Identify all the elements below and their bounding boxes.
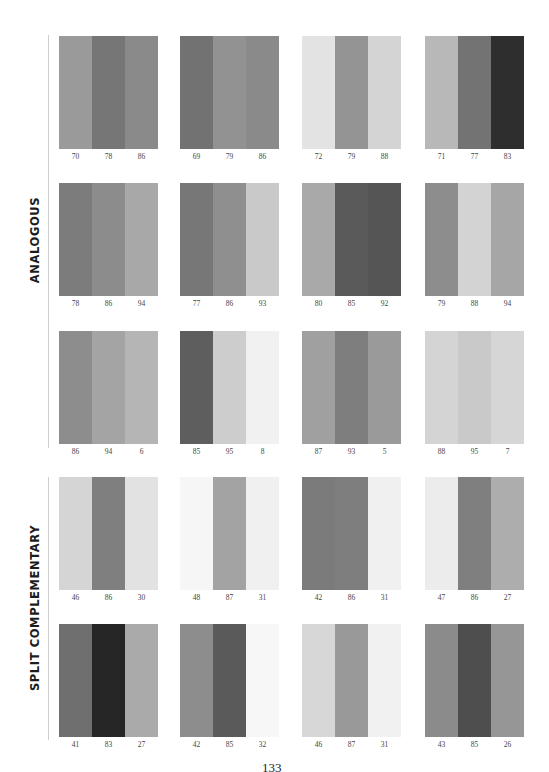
color-swatch: 468731	[302, 624, 401, 737]
swatch-value: 83	[92, 740, 125, 749]
swatch-value-labels: 88957	[425, 447, 524, 456]
swatch-value: 95	[213, 447, 246, 456]
section-label: SPLIT COMPLEMENTARY	[28, 525, 42, 691]
swatch-value: 85	[458, 740, 491, 749]
color-stripe	[213, 331, 246, 444]
color-swatch: 87935	[302, 331, 401, 444]
swatch-value: 31	[368, 593, 401, 602]
color-stripe	[59, 477, 92, 590]
swatch-value: 86	[335, 593, 368, 602]
swatch-value: 46	[59, 593, 92, 602]
color-stripe	[59, 624, 92, 737]
swatch-value: 42	[302, 593, 335, 602]
color-stripe	[59, 36, 92, 149]
color-swatch: 468630	[59, 477, 158, 590]
swatch-value-labels: 778693	[180, 299, 279, 308]
swatch-value: 41	[59, 740, 92, 749]
swatch-value: 5	[368, 447, 401, 456]
color-stripe	[213, 36, 246, 149]
swatch-value-labels: 87935	[302, 447, 401, 456]
swatch-value-labels: 86946	[59, 447, 158, 456]
color-stripe	[302, 331, 335, 444]
swatch-value-labels: 707886	[59, 152, 158, 161]
color-stripe	[335, 477, 368, 590]
swatch-value-labels: 717783	[425, 152, 524, 161]
swatch-value: 86	[125, 152, 158, 161]
color-stripe	[59, 183, 92, 296]
color-stripe	[180, 183, 213, 296]
color-stripe	[425, 624, 458, 737]
color-stripe	[491, 624, 524, 737]
swatch-value: 48	[180, 593, 213, 602]
swatch-value: 8	[246, 447, 279, 456]
swatch-value: 94	[125, 299, 158, 308]
swatch-value: 86	[92, 299, 125, 308]
swatch-value: 94	[491, 299, 524, 308]
swatch-value-labels: 468630	[59, 593, 158, 602]
color-swatch: 808592	[302, 183, 401, 296]
swatch-value: 88	[368, 152, 401, 161]
swatch-value: 86	[458, 593, 491, 602]
color-stripe	[125, 624, 158, 737]
swatch-value: 79	[425, 299, 458, 308]
color-swatch: 428631	[302, 477, 401, 590]
swatch-value-labels: 478627	[425, 593, 524, 602]
color-stripe	[425, 183, 458, 296]
color-stripe	[368, 36, 401, 149]
color-stripe	[491, 36, 524, 149]
color-stripe	[92, 183, 125, 296]
swatch-value: 70	[59, 152, 92, 161]
color-stripe	[246, 624, 279, 737]
color-stripe	[368, 624, 401, 737]
swatch-value: 78	[59, 299, 92, 308]
swatch-value-labels: 428631	[302, 593, 401, 602]
swatch-value-labels: 727988	[302, 152, 401, 161]
color-swatch: 86946	[59, 331, 158, 444]
swatch-value: 85	[180, 447, 213, 456]
color-stripe	[125, 331, 158, 444]
color-swatch: 488731	[180, 477, 279, 590]
color-swatch: 418327	[59, 624, 158, 737]
color-swatch: 798894	[425, 183, 524, 296]
swatch-value: 72	[302, 152, 335, 161]
color-swatch: 428532	[180, 624, 279, 737]
color-stripe	[425, 477, 458, 590]
color-swatch: 85958	[180, 331, 279, 444]
color-stripe	[458, 477, 491, 590]
color-stripe	[125, 183, 158, 296]
color-stripe	[213, 183, 246, 296]
swatch-value: 86	[213, 299, 246, 308]
color-stripe	[246, 477, 279, 590]
swatch-value: 88	[458, 299, 491, 308]
swatch-value: 87	[302, 447, 335, 456]
swatch-value-labels: 788694	[59, 299, 158, 308]
color-stripe	[59, 331, 92, 444]
swatch-value: 47	[425, 593, 458, 602]
swatch-value: 88	[425, 447, 458, 456]
color-stripe	[92, 477, 125, 590]
color-stripe	[125, 477, 158, 590]
swatch-value: 26	[491, 740, 524, 749]
swatch-value: 86	[246, 152, 279, 161]
color-stripe	[302, 36, 335, 149]
swatch-value: 87	[213, 593, 246, 602]
swatch-value: 77	[458, 152, 491, 161]
color-stripe	[246, 36, 279, 149]
color-swatch: 88957	[425, 331, 524, 444]
swatch-value-labels: 798894	[425, 299, 524, 308]
color-swatch: 717783	[425, 36, 524, 149]
swatch-value: 6	[125, 447, 158, 456]
swatch-value: 31	[368, 740, 401, 749]
color-swatch: 727988	[302, 36, 401, 149]
swatch-value: 46	[302, 740, 335, 749]
color-swatch: 478627	[425, 477, 524, 590]
color-stripe	[335, 183, 368, 296]
swatch-value-labels: 438526	[425, 740, 524, 749]
color-stripe	[368, 477, 401, 590]
swatch-value-labels: 808592	[302, 299, 401, 308]
color-stripe	[180, 624, 213, 737]
color-stripe	[92, 331, 125, 444]
swatch-value: 32	[246, 740, 279, 749]
swatch-value: 30	[125, 593, 158, 602]
swatch-value: 7	[491, 447, 524, 456]
